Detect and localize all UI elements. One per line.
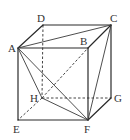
edge-DH (42, 25, 43, 98)
edge-BC (88, 25, 111, 48)
edge-FG (88, 98, 111, 120)
diagonal-CF (88, 25, 111, 120)
diagonal-AC (18, 25, 111, 48)
vertex-label-G: G (114, 92, 122, 104)
vertex-label-B: B (80, 35, 87, 47)
vertex-label-H: H (30, 92, 38, 104)
vertex-label-D: D (37, 12, 45, 24)
diagonal-HB (42, 48, 88, 98)
diagonal-AH (18, 48, 42, 98)
diagonal-AF (18, 48, 88, 120)
vertex-label-E: E (13, 123, 20, 135)
vertex-label-F: F (84, 123, 90, 135)
vertex-label-C: C (110, 12, 117, 24)
cube-diagram: A B C D E F G H (0, 0, 130, 140)
vertex-label-A: A (8, 42, 16, 54)
diagonal-HF (42, 98, 88, 120)
